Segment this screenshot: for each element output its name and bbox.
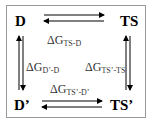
label-dg-tsp-dp: ΔGTS’-D’ (50, 83, 90, 99)
node-d: D (15, 14, 26, 29)
node-ts: TS (120, 14, 138, 29)
label-dg-tsp-ts: ΔGTS’-TS (85, 61, 125, 77)
label-dg-ts-d: ΔGTS-D (47, 34, 81, 50)
label-dg-dp-d: ΔGD’-D (26, 61, 59, 77)
node-d-prime: D’ (14, 98, 30, 113)
node-ts-prime: TS’ (110, 98, 133, 113)
